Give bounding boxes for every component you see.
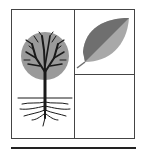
- leaf-panel: [75, 10, 135, 74]
- empty-panel: [75, 75, 135, 138]
- baseline-rule: [11, 147, 136, 149]
- tree-panel: [12, 10, 74, 138]
- tree-icon: [12, 10, 74, 138]
- leaf-icon: [75, 10, 135, 74]
